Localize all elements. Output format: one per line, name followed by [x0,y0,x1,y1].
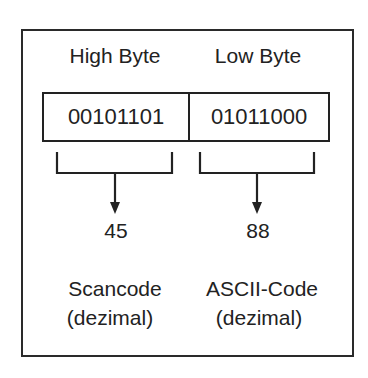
high-byte-label: Scancode [68,278,161,299]
high-byte-bracket [57,152,172,173]
high-byte-arrowhead-icon [110,202,120,214]
bracket-arrows [0,0,368,378]
low-byte-label: ASCII-Code [206,278,318,299]
low-byte-label-sub: (dezimal) [216,307,302,328]
high-byte-decimal: 45 [104,220,127,241]
high-byte-label-sub: (dezimal) [67,307,153,328]
low-byte-bracket [200,152,314,173]
low-byte-decimal: 88 [246,220,269,241]
low-byte-arrowhead-icon [252,202,262,214]
